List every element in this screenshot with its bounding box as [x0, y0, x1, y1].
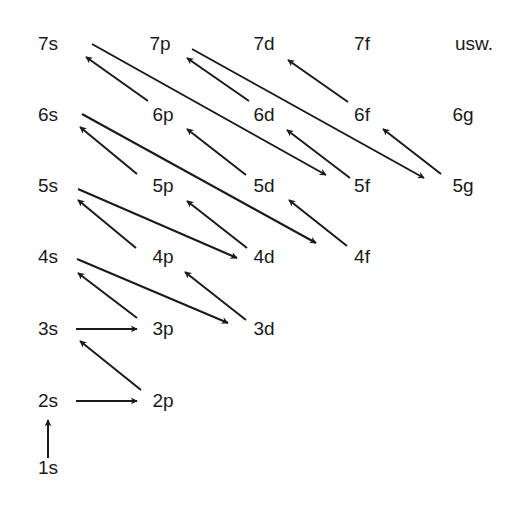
arrow-7p-to-5g-icon — [192, 49, 424, 178]
orbital-label-6d: 6d — [253, 105, 274, 124]
orbital-label-3d: 3d — [253, 319, 274, 338]
orbital-label-6s: 6s — [38, 105, 58, 124]
orbital-label-3p: 3p — [152, 319, 173, 338]
orbital-label-7p: 7p — [149, 34, 170, 53]
arrow-2p-to-3s-icon — [80, 341, 141, 390]
orbital-label-5f: 5f — [354, 176, 370, 195]
arrow-7s-to-5f-icon — [92, 44, 326, 175]
arrow-4s-to-3d-icon — [77, 259, 228, 323]
orbital-label-5p: 5p — [152, 176, 173, 195]
arrow-6f-to-7d-icon — [288, 60, 348, 102]
orbital-label-3s: 3s — [38, 319, 58, 338]
orbital-label-6f: 6f — [354, 105, 370, 124]
orbital-label-7d: 7d — [253, 34, 274, 53]
arrow-4f-to-5d-icon — [289, 200, 347, 246]
orbital-label-7s: 7s — [38, 34, 58, 53]
orbital-label-6g: 6g — [452, 105, 473, 124]
orbital-label-7f: 7f — [354, 34, 370, 53]
orbital-label-5g: 5g — [452, 176, 473, 195]
orbital-label-2p: 2p — [152, 391, 173, 410]
orbital-label-1s: 1s — [38, 458, 58, 477]
orbital-label-4d: 4d — [253, 247, 274, 266]
orbital-label-4p: 4p — [152, 247, 173, 266]
arrow-3d-to-4p-icon — [185, 272, 246, 320]
arrow-5p-to-6s-icon — [80, 127, 137, 174]
orbital-label-usw: usw. — [455, 34, 493, 53]
orbital-label-5d: 5d — [253, 176, 274, 195]
arrow-5g-to-6f-icon — [383, 129, 441, 174]
orbital-label-5s: 5s — [38, 176, 58, 195]
arrow-6p-to-7s-icon — [86, 57, 148, 101]
arrow-5d-to-6p-icon — [187, 129, 246, 175]
orbital-label-4f: 4f — [354, 247, 370, 266]
arrow-4p-to-5s-icon — [78, 200, 136, 248]
arrow-6s-to-4f-icon — [82, 114, 316, 243]
aufbau-diagram: 7s7p7d7fusw.6s6p6d6f6g5s5p5d5f5g4s4p4d4f… — [0, 0, 508, 508]
orbital-label-4s: 4s — [38, 247, 58, 266]
orbital-label-2s: 2s — [38, 391, 58, 410]
orbital-label-6p: 6p — [152, 105, 173, 124]
